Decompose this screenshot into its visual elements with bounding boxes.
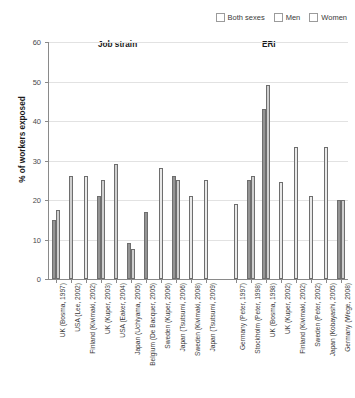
bar bbox=[309, 196, 313, 279]
gridline bbox=[49, 240, 348, 241]
legend-label-both-sexes: Both sexes bbox=[228, 13, 265, 22]
y-tick-label: 40 bbox=[19, 117, 41, 126]
y-tick-mark bbox=[45, 42, 49, 43]
legend-label-women: Women bbox=[321, 13, 347, 22]
y-tick-label: 50 bbox=[19, 78, 41, 87]
y-tick-label: 10 bbox=[19, 236, 41, 245]
x-tick-label: Finland (Kivimaki, 2002) bbox=[299, 283, 306, 354]
x-tick-label: Japan (Tsutsumi, 2009) bbox=[209, 283, 216, 352]
x-tick-label: Belgium (De Bacquer, 2005) bbox=[149, 283, 156, 366]
legend-item-both-sexes: Both sexes bbox=[216, 13, 265, 22]
bar bbox=[294, 147, 298, 279]
x-tick-label: Sweden (Kivimaki, 2008) bbox=[194, 283, 201, 356]
chart-legend: Both sexes Men Women bbox=[216, 13, 347, 22]
x-tick-label: UK (Bosma, 1998) bbox=[269, 283, 276, 337]
x-axis-labels: UK (Bosma, 1997)USA (Lee, 2002)Finland (… bbox=[49, 283, 348, 398]
x-tick-label: Germany (Peter, 1997) bbox=[239, 283, 246, 350]
bar bbox=[176, 180, 180, 279]
y-tick-mark bbox=[45, 200, 49, 201]
gridline bbox=[49, 161, 348, 162]
legend-item-women: Women bbox=[309, 13, 347, 22]
x-tick-label: Japan (Uchiyama, 2005) bbox=[134, 283, 141, 355]
bar bbox=[266, 85, 270, 279]
y-tick-label: 60 bbox=[19, 38, 41, 47]
bar bbox=[56, 210, 60, 279]
legend-item-men: Men bbox=[274, 13, 301, 22]
x-tick-label: Sweden (Kuper, 2006) bbox=[164, 283, 171, 349]
y-tick-mark bbox=[45, 161, 49, 162]
y-tick-mark bbox=[45, 240, 49, 241]
bar bbox=[324, 147, 328, 279]
gridline bbox=[49, 42, 348, 43]
legend-swatch-women bbox=[309, 13, 318, 22]
bar bbox=[114, 164, 118, 279]
x-tick-label: Germany (Wege, 2008) bbox=[344, 283, 351, 352]
bar bbox=[131, 249, 135, 279]
y-axis-title: % of workers exposed bbox=[18, 80, 27, 200]
x-tick-label: Finland (Kivimaki, 2002) bbox=[89, 283, 96, 354]
gridline bbox=[49, 121, 348, 122]
bar bbox=[279, 182, 283, 279]
x-tick-label: USA (Lee, 2002) bbox=[74, 283, 81, 332]
bar bbox=[69, 176, 73, 279]
x-tick-label: UK (Bosma, 1997) bbox=[59, 283, 66, 337]
y-tick-mark bbox=[45, 121, 49, 122]
legend-label-men: Men bbox=[286, 13, 301, 22]
legend-swatch-both-sexes bbox=[216, 13, 225, 22]
bar bbox=[84, 176, 88, 279]
bar bbox=[204, 180, 208, 279]
x-tick-label: Stockholm (Peter, 1998) bbox=[254, 283, 261, 354]
bar bbox=[341, 200, 345, 279]
y-tick-label: 30 bbox=[19, 157, 41, 166]
x-tick-label: UK (Kuper, 2002) bbox=[284, 283, 291, 334]
bar bbox=[144, 212, 148, 279]
y-tick-mark bbox=[45, 279, 49, 280]
bar bbox=[234, 204, 238, 279]
bar bbox=[101, 180, 105, 279]
x-tick-label: Japan (Tsutsumi, 2006) bbox=[179, 283, 186, 352]
y-tick-label: 0 bbox=[19, 275, 41, 284]
bar bbox=[251, 176, 255, 279]
x-tick-label: USA (Eaker, 2004) bbox=[119, 283, 126, 338]
gridline bbox=[49, 82, 348, 83]
bar bbox=[189, 196, 193, 279]
gridline bbox=[49, 200, 348, 201]
x-tick-label: Japan (Kobayashi, 2005) bbox=[329, 283, 336, 356]
bar bbox=[159, 168, 163, 279]
x-tick-label: UK (Kuper, 2003) bbox=[104, 283, 111, 334]
y-tick-label: 20 bbox=[19, 196, 41, 205]
legend-swatch-men bbox=[274, 13, 283, 22]
x-tick-label: Sweden (Peter, 2002) bbox=[314, 283, 321, 347]
y-tick-mark bbox=[45, 82, 49, 83]
plot-area bbox=[49, 42, 348, 279]
x-axis-line bbox=[48, 279, 348, 280]
